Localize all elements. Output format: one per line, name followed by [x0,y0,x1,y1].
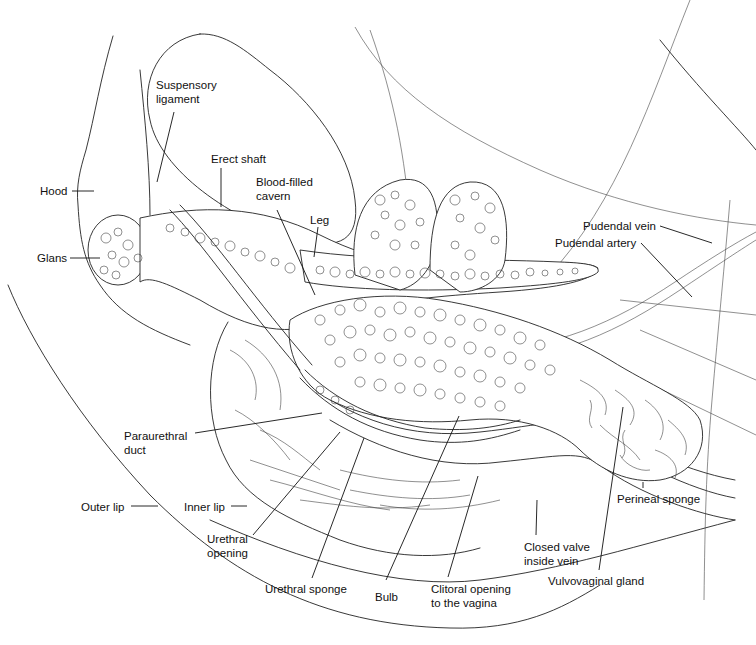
label-closed-valve: Closed valve inside vein [524,540,590,568]
label-clitoral-opening: Clitoral opening to the vagina [431,582,511,610]
label-leg: Leg [310,213,329,227]
label-pudendal-artery: Pudendal artery [555,236,636,250]
label-outer-lip: Outer lip [81,500,124,514]
label-urethral-sponge: Urethral sponge [265,582,347,596]
label-inner-lip: Inner lip [184,500,225,514]
leader-paraurethral-duct [195,413,322,433]
right-body-contour [660,40,756,150]
label-erect-shaft: Erect shaft [211,152,266,166]
anatomy-diagram: Suspensory ligament Erect shaft Hood Blo… [0,0,756,645]
label-paraurethral-duct: Paraurethral duct [124,429,187,457]
glans-body [88,215,148,285]
leader-suspensory-ligament [157,112,174,182]
erectile-lobe-left [354,179,438,290]
leader-pudendal-artery [641,243,692,297]
label-suspensory-ligament: Suspensory ligament [156,78,217,106]
leader-pudendal-vein [660,226,712,243]
vein-branch [704,200,730,600]
label-bulb: Bulb [375,590,398,604]
leader-urethral-sponge [312,438,364,578]
label-hood: Hood [40,184,68,198]
ligament-strand-1 [140,70,150,215]
perineum-contour [210,520,735,582]
label-pudendal-vein: Pudendal vein [583,219,656,233]
leader-closed-valve [536,500,537,535]
vestibular-bulb [289,296,703,481]
erectile-lobe-right [430,182,507,292]
leader-clitoral-opening [448,476,478,577]
label-perineal-sponge: Perineal sponge [617,492,700,506]
label-urethral-opening: Urethral opening [207,532,248,560]
label-vulvovaginal-gland: Vulvovaginal gland [548,574,644,588]
diagram-drawing [0,0,756,645]
leader-urethral-opening [253,432,340,535]
label-glans: Glans [37,251,67,265]
label-blood-filled-cavern: Blood-filled cavern [256,175,313,203]
